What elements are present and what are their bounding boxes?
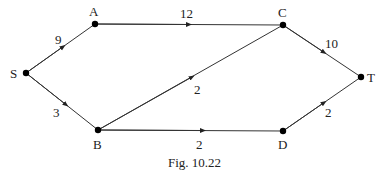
node-t: T — [358, 70, 375, 85]
edge-weight-c-t: 10 — [325, 36, 338, 51]
edge-b-d: 2 — [98, 130, 283, 152]
node-label-s: S — [10, 66, 17, 81]
network-flow-diagram: 9 3 12 2 2 10 2 S A C — [0, 0, 386, 176]
node-label-a: A — [89, 4, 99, 19]
node-label-t: T — [367, 70, 375, 85]
arrow-icon — [283, 25, 324, 52]
edge-weight-s-a: 9 — [55, 32, 62, 47]
edge-weight-d-t: 2 — [325, 105, 332, 120]
edge-weight-a-c: 12 — [180, 6, 193, 21]
edge-c-t: 10 — [283, 25, 361, 77]
edge-weight-s-b: 3 — [53, 105, 60, 120]
arrow-icon — [98, 77, 192, 130]
node-label-b: B — [93, 137, 102, 152]
edge-d-t: 2 — [283, 77, 361, 131]
edge-b-c: 2 — [98, 25, 283, 130]
arrow-icon — [98, 130, 203, 131]
arrow-icon — [26, 47, 63, 73]
node-label-c: C — [278, 5, 287, 20]
edge-s-a: 9 — [26, 24, 95, 73]
figure-caption: Fig. 10.22 — [168, 155, 221, 170]
node-s: S — [10, 66, 29, 81]
edge-weight-b-c: 2 — [194, 82, 201, 97]
node-b: B — [93, 127, 102, 152]
edge-s-b: 3 — [26, 73, 98, 130]
edge-weight-b-d: 2 — [196, 137, 203, 152]
arrow-icon — [95, 24, 189, 25]
node-a: A — [89, 4, 99, 27]
node-label-d: D — [278, 137, 287, 152]
arrow-icon — [26, 73, 66, 105]
arrow-icon — [283, 103, 324, 131]
edge-a-c: 12 — [95, 6, 283, 25]
